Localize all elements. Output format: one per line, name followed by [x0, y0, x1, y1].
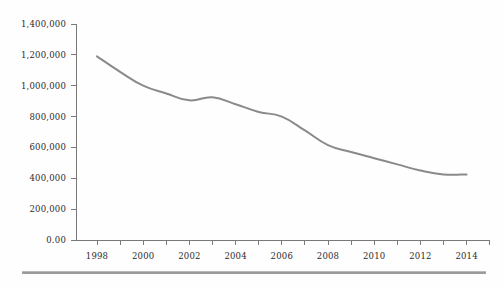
x-axis-tick-label: 2004: [224, 251, 246, 261]
y-axis-tick-labels: 1,400,0001,200,0001,000,000800,000600,00…: [0, 0, 74, 262]
x-axis-tick-label: 2010: [363, 251, 385, 261]
x-axis-tick-label: 2000: [132, 251, 154, 261]
chart-series: [97, 56, 467, 174]
y-axis-tick-label: 200,000: [29, 204, 66, 214]
x-axis-tick-label: 1998: [86, 251, 108, 261]
x-axis-tick-label: 2008: [317, 251, 339, 261]
x-axis-tick-label: 2012: [409, 251, 431, 261]
bottom-divider-highlight: [22, 271, 486, 272]
line-chart-svg: [0, 0, 504, 262]
x-axis-tick-label: 2014: [455, 251, 477, 261]
chart-page: 1,400,0001,200,0001,000,000800,000600,00…: [0, 0, 504, 287]
x-axis-tick-label: 2006: [271, 251, 293, 261]
x-axis-tick-label: 2002: [178, 251, 200, 261]
y-axis-tick-label: 1,200,000: [21, 50, 66, 60]
bottom-divider-rule: [22, 271, 486, 274]
y-axis-tick-label: 400,000: [29, 173, 66, 183]
y-axis-tick-label: 1,000,000: [21, 81, 66, 91]
chart-axes: [71, 24, 490, 245]
y-axis-tick-label: 1,400,000: [21, 19, 66, 29]
y-axis-tick-label: 800,000: [29, 112, 66, 122]
chart-canvas: 1,400,0001,200,0001,000,000800,000600,00…: [0, 0, 504, 262]
y-axis-tick-label: 600,000: [29, 142, 66, 152]
x-axis-tick-labels: 199820002002200420062008201020122014: [0, 243, 504, 265]
